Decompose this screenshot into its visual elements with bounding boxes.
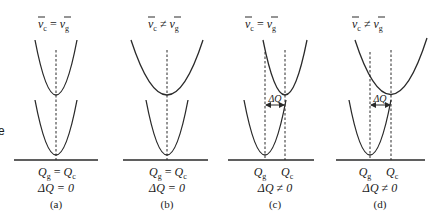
panel-a-header: vc=vg bbox=[38, 17, 69, 33]
qc-label: Qc bbox=[281, 165, 294, 181]
panel-a-q-label: Qg=Qc bbox=[38, 165, 76, 181]
panel-d: vc≠vg ΔQ Qg Qc ΔQ ≠ 0 (d) bbox=[336, 17, 427, 211]
panel-b-header: vc≠vg bbox=[148, 17, 179, 33]
panel-b-caption: (b) bbox=[161, 198, 174, 211]
displaced-oscillator-diagram: e vc=vg Qg=Qc ΔQ = 0 (a) vc≠vg Qg=Qc ΔQ … bbox=[0, 0, 436, 215]
qg-label: Qg bbox=[359, 165, 372, 181]
panel-a-caption: (a) bbox=[50, 198, 63, 211]
panel-d-delta-label: ΔQ ≠ 0 bbox=[362, 181, 397, 195]
panel-d-header: vc≠vg bbox=[352, 17, 383, 33]
panel-b: vc≠vg Qg=Qc ΔQ = 0 (b) bbox=[123, 17, 208, 211]
panel-c-delta-label: ΔQ ≠ 0 bbox=[257, 181, 292, 195]
panel-b-q-label: Qg=Qc bbox=[149, 165, 187, 181]
panel-d-caption: (d) bbox=[374, 198, 387, 211]
panel-c-caption: (c) bbox=[269, 198, 282, 211]
qc-label: Qc bbox=[386, 165, 399, 181]
cropped-text-fragment: e bbox=[0, 124, 5, 138]
panel-a: vc=vg Qg=Qc ΔQ = 0 (a) bbox=[14, 17, 98, 211]
panel-c-header: vc=vg bbox=[245, 17, 276, 33]
delta-q-arrow-label: ΔQ bbox=[267, 93, 282, 104]
delta-q-arrow-label: ΔQ bbox=[372, 93, 387, 104]
panel-a-delta-label: ΔQ = 0 bbox=[37, 181, 74, 195]
panel-c: vc=vg ΔQ Qg Qc ΔQ ≠ 0 (c) bbox=[228, 17, 314, 211]
panel-b-delta-label: ΔQ = 0 bbox=[148, 181, 185, 195]
qg-label: Qg bbox=[254, 165, 267, 181]
